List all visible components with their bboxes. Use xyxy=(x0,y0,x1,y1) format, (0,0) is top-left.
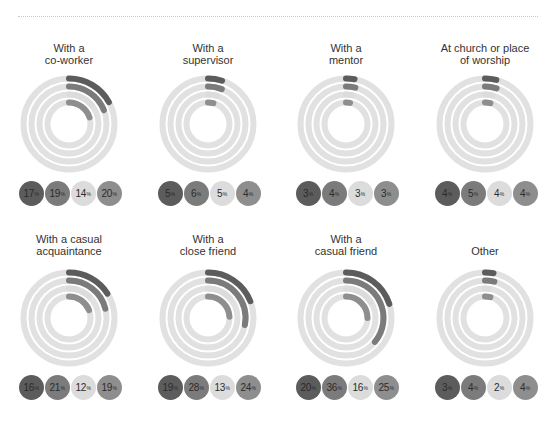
value-badge-series-4: 20% xyxy=(97,181,122,206)
top-dotted-divider xyxy=(18,16,538,17)
badge-value: 3 xyxy=(381,188,386,199)
percent-sign: % xyxy=(474,385,478,391)
percent-sign: % xyxy=(448,191,452,197)
badge-value: 14 xyxy=(75,188,86,199)
ring-arc-series-4 xyxy=(69,296,89,310)
panel-title-line: With a xyxy=(277,234,415,246)
badge-value: 6 xyxy=(191,188,196,199)
value-badge-series-3: 3% xyxy=(348,181,373,206)
badge-value: 17 xyxy=(23,188,34,199)
badge-value: 3 xyxy=(303,188,308,199)
ring-arc-series-4 xyxy=(208,296,229,316)
panel-title-line xyxy=(416,234,554,246)
panel-title-line: Other xyxy=(416,246,554,258)
ring-track xyxy=(448,86,523,161)
ring-track xyxy=(464,296,507,339)
value-badges: 17%19%14%20% xyxy=(0,181,138,206)
badge-value: 19 xyxy=(162,382,173,393)
badge-value: 3 xyxy=(442,382,447,393)
value-badges: 19%28%13%24% xyxy=(139,375,277,400)
value-badge-series-4: 4% xyxy=(513,181,538,206)
value-badges: 3%4%3%3% xyxy=(277,181,415,206)
value-badge-series-2: 6% xyxy=(184,181,209,206)
badge-value: 4 xyxy=(494,188,499,199)
ring-arc-series-2 xyxy=(346,86,355,87)
value-badge-series-1: 3% xyxy=(435,375,460,400)
badge-value: 36 xyxy=(326,382,337,393)
panel-title-line: With a xyxy=(139,43,277,55)
percent-sign: % xyxy=(389,385,393,391)
badge-value: 5 xyxy=(165,188,170,199)
value-badges: 16%21%12%19% xyxy=(0,375,138,400)
panel-title-line: At church or place xyxy=(416,43,554,55)
value-badge-series-2: 5% xyxy=(461,181,486,206)
ring-arc-series-2 xyxy=(208,86,222,89)
panel-title-line: co-worker xyxy=(0,55,138,67)
panel-title-line: acquaintance xyxy=(0,246,138,258)
ring-arc-series-3 xyxy=(208,94,217,95)
badge-value: 4 xyxy=(520,188,525,199)
panel-title-line: close friend xyxy=(139,246,277,258)
badge-value: 16 xyxy=(352,382,363,393)
panel-title: At church or placeof worship xyxy=(416,43,554,66)
percent-sign: % xyxy=(474,191,478,197)
panel-title-line: mentor xyxy=(277,55,415,67)
percent-sign: % xyxy=(86,385,90,391)
value-badge-series-3: 12% xyxy=(71,375,96,400)
percent-sign: % xyxy=(171,191,175,197)
percent-sign: % xyxy=(387,191,391,197)
percent-sign: % xyxy=(34,191,38,197)
value-badge-series-2: 19% xyxy=(45,181,70,206)
value-badges: 5%6%5%4% xyxy=(139,181,277,206)
panel-title: With acasual friend xyxy=(277,234,415,257)
badge-value: 4 xyxy=(243,188,248,199)
value-badge-series-4: 3% xyxy=(374,181,399,206)
radial-rings xyxy=(158,268,258,368)
percent-sign: % xyxy=(361,191,365,197)
badge-value: 25 xyxy=(378,382,389,393)
badge-value: 20 xyxy=(300,382,311,393)
badge-value: 21 xyxy=(49,382,60,393)
badge-value: 20 xyxy=(101,188,112,199)
badge-value: 2 xyxy=(494,382,499,393)
percent-sign: % xyxy=(309,191,313,197)
value-badge-series-1: 3% xyxy=(296,181,321,206)
percent-sign: % xyxy=(60,191,64,197)
ring-arc-series-1 xyxy=(485,272,494,273)
panel-title-line: casual friend xyxy=(277,246,415,258)
value-badge-series-4: 25% xyxy=(374,375,399,400)
percent-sign: % xyxy=(60,385,64,391)
ring-arc-series-4 xyxy=(485,296,490,297)
badge-value: 5 xyxy=(217,188,222,199)
ring-arc-series-4 xyxy=(208,102,213,103)
value-badge-series-1: 17% xyxy=(19,181,44,206)
badge-value: 12 xyxy=(75,382,86,393)
ring-arc-series-2 xyxy=(485,86,497,88)
value-badge-series-2: 36% xyxy=(322,375,347,400)
radial-rings xyxy=(296,74,396,174)
badge-value: 4 xyxy=(329,188,334,199)
percent-sign: % xyxy=(363,385,367,391)
value-badge-series-1: 20% xyxy=(296,375,321,400)
value-badge-series-4: 4% xyxy=(513,375,538,400)
percent-sign: % xyxy=(197,191,201,197)
percent-sign: % xyxy=(112,385,116,391)
value-badge-series-2: 21% xyxy=(45,375,70,400)
ring-arc-series-4 xyxy=(346,296,368,318)
badge-value: 16 xyxy=(23,382,34,393)
panel-title: With a casualacquaintance xyxy=(0,234,138,257)
value-badge-series-1: 5% xyxy=(158,181,183,206)
panel-title-line: supervisor xyxy=(139,55,277,67)
percent-sign: % xyxy=(311,385,315,391)
percent-sign: % xyxy=(249,191,253,197)
radial-rings xyxy=(435,268,535,368)
ring-arc-series-3 xyxy=(346,94,352,95)
value-badge-series-2: 4% xyxy=(461,375,486,400)
value-badges: 20%36%16%25% xyxy=(277,375,415,400)
ring-track xyxy=(464,102,507,145)
ring-arc-series-1 xyxy=(208,78,222,80)
panel-title: With aclose friend xyxy=(139,234,277,257)
percent-sign: % xyxy=(500,385,504,391)
percent-sign: % xyxy=(500,191,504,197)
badge-value: 4 xyxy=(520,382,525,393)
